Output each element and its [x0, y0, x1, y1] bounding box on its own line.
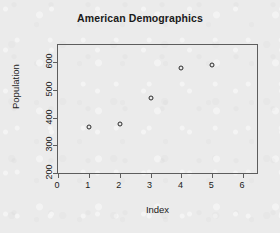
data-point [179, 66, 184, 71]
y-axis-title: Population [10, 64, 21, 109]
x-axis-tick-label: 3 [147, 180, 152, 190]
x-axis-title: Index [57, 204, 258, 215]
x-axis-tick-mark [243, 173, 244, 178]
x-axis-tick-mark [120, 173, 121, 178]
y-axis-tick-label: 200 [43, 164, 53, 179]
y-axis-tick-mark [53, 145, 58, 146]
data-point [210, 63, 215, 68]
x-axis-tick-label: 6 [240, 180, 245, 190]
x-axis-tick-mark [212, 173, 213, 178]
data-point [148, 96, 153, 101]
x-axis-tick-mark [151, 173, 152, 178]
x-axis-tick-mark [58, 173, 59, 178]
y-axis-tick-mark [53, 62, 58, 63]
x-axis-tick-label: 1 [85, 180, 90, 190]
x-axis-tick-label: 0 [54, 180, 59, 190]
y-axis-tick-mark [53, 118, 58, 119]
x-axis-tick-mark [181, 173, 182, 178]
x-axis-tick-label: 5 [209, 180, 214, 190]
y-axis-tick-label: 300 [43, 137, 53, 152]
y-axis-tick-label: 500 [43, 82, 53, 97]
x-axis-tick-label: 2 [116, 180, 121, 190]
y-axis-tick-label: 600 [43, 54, 53, 69]
plot-area [57, 44, 258, 174]
y-axis-tick-mark [53, 90, 58, 91]
data-point [117, 121, 122, 126]
data-point [86, 124, 91, 129]
x-axis-tick-mark [89, 173, 90, 178]
chart-title: American Demographics [0, 12, 280, 24]
scatter-plot-figure: American Demographics Population Index 2… [0, 0, 280, 233]
y-axis-tick-label: 400 [43, 109, 53, 124]
x-axis-tick-label: 4 [178, 180, 183, 190]
